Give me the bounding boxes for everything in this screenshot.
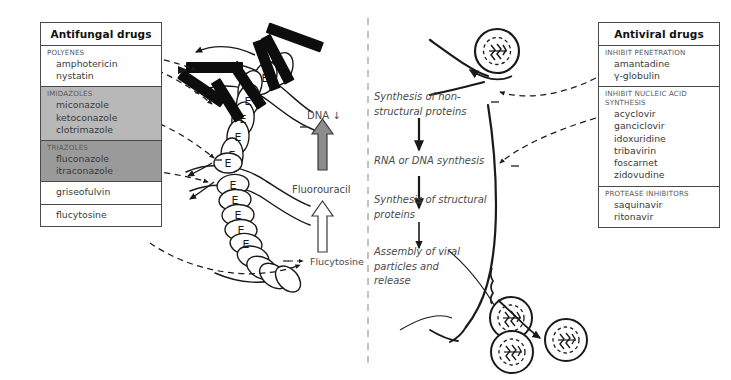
virus-particle-entering — [475, 29, 519, 73]
antifungal-panel-title: Antifungal drugs — [41, 23, 161, 46]
svg-text:E: E — [232, 194, 239, 207]
drug-miconazole[interactable]: miconazole — [47, 99, 157, 111]
drug-fluconazole[interactable]: fluconazole — [47, 153, 157, 165]
group-heading-triazoles: TRIAZOLES — [47, 144, 157, 153]
drug-group-triazoles[interactable]: TRIAZOLES fluconazole itraconazole — [41, 141, 161, 182]
arrow-inhibit-penetration — [500, 78, 596, 96]
drug-group-griseofulvin[interactable]: griseofulvin — [41, 182, 161, 204]
svg-text:E: E — [235, 131, 242, 144]
drug-zidovudine[interactable]: zidovudine — [605, 169, 715, 181]
group-heading-polyenes: POLYENES — [47, 49, 157, 58]
drug-acyclovir[interactable]: acyclovir — [605, 108, 715, 120]
drug-group-protease-inhibitors[interactable]: PROTEASE INHIBITORS saquinavir ritonavir — [599, 187, 719, 227]
antiviral-drug-action-arrows — [500, 78, 596, 163]
drug-foscarnet[interactable]: foscarnet — [605, 157, 715, 169]
drug-ritonavir[interactable]: ritonavir — [605, 211, 715, 223]
svg-text:E: E — [235, 209, 242, 222]
drug-itraconazole[interactable]: itraconazole — [47, 165, 157, 177]
label-synthesis-nonstructural-proteins: Synthesis of non- structural proteins — [374, 90, 486, 119]
group-heading-inhibit-nucleic-acid-synthesis: INHIBIT NUCLEIC ACID SYNTHESIS — [605, 90, 715, 108]
drug-group-flucytosine[interactable]: flucytosine — [41, 205, 161, 226]
drug-griseofulvin[interactable]: griseofulvin — [47, 186, 157, 198]
drug-amphotericin[interactable]: amphotericin — [47, 58, 157, 70]
host-cell-membrane-lower — [430, 327, 466, 342]
label-dna-synthesis: DNA ↓ — [307, 110, 341, 121]
drug-ketoconazole[interactable]: ketoconazole — [47, 112, 157, 124]
antifungal-drugs-panel: Antifungal drugs POLYENES amphotericin n… — [40, 22, 162, 227]
drug-nystatin[interactable]: nystatin — [47, 70, 157, 82]
svg-text:E: E — [225, 157, 232, 170]
virus-particle-released-2 — [491, 331, 533, 373]
ergosterol-single-left: E — [214, 153, 242, 173]
drug-gamma-globulin[interactable]: γ-globulin — [605, 70, 715, 82]
label-assembly-of-viral-particles: Assembly of viral particles and release — [374, 245, 474, 289]
antiviral-drugs-panel: Antiviral drugs INHIBIT PENETRATION aman… — [598, 22, 720, 228]
host-cell-budding-wiggle — [491, 268, 493, 304]
diagram-canvas: E E E E E E E — [0, 0, 731, 380]
svg-text:E: E — [243, 238, 250, 251]
drug-clotrimazole[interactable]: clotrimazole — [47, 124, 157, 136]
virus-particle-released-3 — [545, 319, 587, 361]
drug-amantadine[interactable]: amantadine — [605, 58, 715, 70]
label-synthesis-structural-proteins: Synthesis of structural proteins — [374, 193, 489, 222]
drug-saquinavir[interactable]: saquinavir — [605, 199, 715, 211]
label-fluorouracil: Fluorouracil — [292, 184, 351, 195]
drug-group-imidazoles[interactable]: IMIDAZOLES miconazole ketoconazole clotr… — [41, 87, 161, 141]
drug-group-inhibit-nucleic-acid-synthesis[interactable]: INHIBIT NUCLEIC ACID SYNTHESIS acyclovir… — [599, 87, 719, 186]
svg-text:E: E — [238, 224, 245, 237]
drug-flucytosine[interactable]: flucytosine — [47, 209, 157, 221]
antiviral-panel-title: Antiviral drugs — [599, 23, 719, 46]
group-heading-inhibit-penetration: INHIBIT PENETRATION — [605, 49, 715, 58]
label-flucytosine-metabolite: Flucytosine — [310, 256, 364, 267]
drug-group-polyenes[interactable]: POLYENES amphotericin nystatin — [41, 46, 161, 87]
group-heading-imidazoles: IMIDAZOLES — [47, 90, 157, 99]
drug-idoxuridine[interactable]: idoxuridine — [605, 133, 715, 145]
drug-ganciclovir[interactable]: ganciclovir — [605, 120, 715, 132]
drug-tribavirin[interactable]: tribavirin — [605, 145, 715, 157]
fluorouracil-upper-arrow — [312, 119, 333, 170]
fluorouracil-lower-arrow — [312, 201, 333, 252]
arrow-inhibit-nucleic-acid — [500, 118, 596, 163]
svg-text:E: E — [230, 179, 237, 192]
group-heading-protease-inhibitors: PROTEASE INHIBITORS — [605, 190, 715, 199]
label-rna-or-dna-synthesis: RNA or DNA synthesis — [374, 155, 494, 166]
drug-group-inhibit-penetration[interactable]: INHIBIT PENETRATION amantadine γ-globuli… — [599, 46, 719, 87]
